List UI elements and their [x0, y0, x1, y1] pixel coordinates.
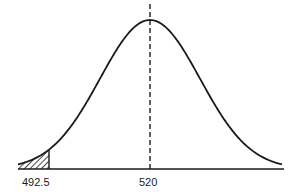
- normal-curve-graphic: [0, 0, 295, 196]
- cutoff-label: 492.5: [22, 176, 50, 188]
- normal-curve-diagram: 492.5 520: [0, 0, 295, 196]
- mean-label: 520: [139, 176, 157, 188]
